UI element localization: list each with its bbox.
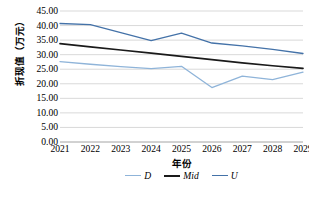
legend-swatch-u-icon [212,175,228,176]
x-axis-tick: 2026 [202,143,221,155]
gridlines [60,11,303,142]
y-axis-tick: 25.00 [36,64,58,74]
legend-label: Mid [183,171,198,181]
x-axis-tick-labels: 202120222023202420252026202720282029 [60,143,303,157]
series-line-u [60,24,303,54]
x-axis-tick: 2022 [81,143,100,155]
legend-label: D [144,171,151,181]
y-axis-tick: 45.00 [36,6,58,16]
line-chart: 折现值（万元） 45.0040.0035.0030.0025.0020.0015… [0,0,309,197]
y-axis-tick: 15.00 [36,94,58,104]
series-lines [60,24,303,88]
plot-svg [60,11,303,142]
x-axis-tick: 2025 [172,143,191,155]
y-axis-tick: 10.00 [36,108,58,118]
x-axis-title: 年份 [60,156,303,170]
x-axis-tick: 2024 [142,143,161,155]
x-axis-tick: 2021 [50,143,69,155]
y-axis-tick: 20.00 [36,79,58,89]
plot-area [60,11,303,142]
y-axis-tick: 35.00 [36,35,58,45]
y-axis-tick-labels: 45.0040.0035.0030.0025.0020.0015.0010.00… [22,11,58,142]
x-axis-tick: 2027 [233,143,252,155]
legend-item-d[interactable]: D [125,171,151,181]
y-axis-tick: 30.00 [36,50,58,60]
legend-item-u[interactable]: U [212,171,238,181]
chart-legend: DMidU [60,171,303,181]
x-axis-tick: 2023 [111,143,130,155]
legend-item-mid[interactable]: Mid [164,171,198,181]
y-axis-tick: 40.00 [36,21,58,31]
legend-swatch-mid-icon [164,175,180,177]
x-axis-tick: 2029 [293,143,309,155]
legend-swatch-d-icon [125,175,141,176]
x-axis-tick: 2028 [263,143,282,155]
legend-label: U [231,171,238,181]
y-axis-tick: 5.00 [41,123,58,133]
